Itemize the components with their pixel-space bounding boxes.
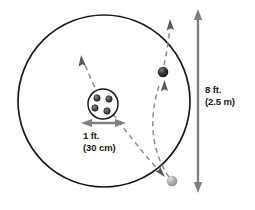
horizontal-core-dimension	[81, 119, 126, 127]
central-body-dot	[92, 105, 98, 111]
central-body-dot	[106, 96, 112, 102]
upper-left-direction-arrowhead	[79, 55, 86, 66]
light-orbiting-ball	[167, 176, 178, 187]
horizontal-dimension-arrowhead-right	[115, 119, 126, 127]
vertical-diameter-dimension	[194, 9, 202, 193]
core-size-label-metric: (30 cm)	[83, 142, 116, 154]
central-body-circle	[88, 89, 118, 119]
horizontal-dimension-arrowhead-left	[81, 119, 92, 127]
core-size-label: 1 ft. (30 cm)	[83, 130, 116, 154]
core-size-label-imperial: 1 ft.	[83, 130, 116, 142]
central-body-dot	[94, 95, 100, 101]
diameter-label-metric: (2.5 m)	[205, 96, 235, 108]
outer-trajectory-path	[153, 83, 169, 177]
central-body-dot	[104, 108, 110, 114]
diameter-label-imperial: 8 ft.	[205, 84, 235, 96]
ball-direction-arrowhead	[161, 80, 168, 91]
diameter-label: 8 ft. (2.5 m)	[205, 84, 235, 108]
diagram-canvas: 8 ft. (2.5 m) 1 ft. (30 cm)	[0, 0, 255, 210]
dark-orbiting-ball	[158, 67, 169, 78]
vertical-dimension-arrowhead-top	[194, 9, 202, 20]
vertical-dimension-arrowhead-bottom	[194, 182, 202, 193]
